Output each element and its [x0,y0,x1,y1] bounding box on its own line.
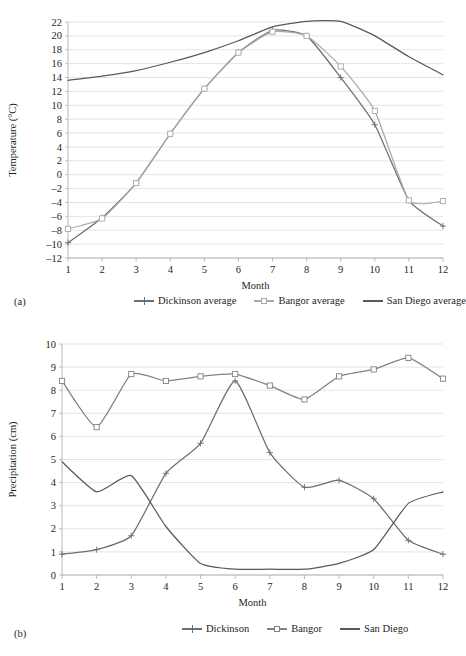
x-axis-tick-label: 3 [134,264,139,275]
marker-square [233,371,238,376]
legend-label: Bangor average [278,296,344,307]
x-axis-tick-label: 6 [233,581,238,592]
x-axis-tick-label: 8 [302,581,307,592]
y-axis-tick-label: –8 [51,225,63,236]
y-axis-tick-label: 14 [52,72,63,83]
legend-swatch-icon [363,296,383,306]
x-axis-title: Month [241,280,270,291]
legend-item-dickinson[interactable]: Dickinson [182,624,249,635]
y-axis-tick-label: 22 [52,17,63,28]
marker-square [440,198,445,203]
y-axis-tick-label: 12 [52,86,63,97]
y-axis-tick-label: 18 [52,44,63,55]
y-axis-title: Temperature (°C) [7,103,19,177]
marker-square [129,371,134,376]
marker-square [134,180,139,185]
y-axis-tick-label: 4 [51,477,57,488]
legend-swatch-icon [182,624,202,634]
chart-a-canvas: 2220181614121086420–2–4–6–8–10–121234567… [0,0,461,292]
y-axis-tick-label: 10 [52,100,63,111]
y-axis-tick-label: –4 [51,197,63,208]
marker-square [406,355,411,360]
x-axis-tick-label: 7 [270,264,275,275]
marker-square [267,383,272,388]
x-axis-title: Month [238,597,267,608]
x-axis-tick-label: 9 [338,264,343,275]
marker-square [94,425,99,430]
y-axis-tick-label: 4 [57,142,63,153]
marker-square [338,64,343,69]
y-axis-tick-label: 0 [51,570,56,581]
precipitation-line-chart: 109876543210123456789101112MonthPrecipit… [0,322,461,622]
marker-square [406,198,411,203]
x-axis-tick-label: 3 [129,581,134,592]
legend-swatch-icon [267,624,287,634]
series-line-bangor-average [68,31,443,229]
legend-label: Dickinson average [158,296,236,307]
y-axis-tick-label: 10 [46,339,57,350]
x-axis-tick-label: 4 [168,264,174,275]
y-axis-tick-label: 1 [51,547,56,558]
y-axis-tick-label: 2 [51,523,56,534]
figure-a-temperature: 2220181614121086420–2–4–6–8–10–121234567… [0,0,461,322]
marker-square [270,29,275,34]
temperature-line-chart: 2220181614121086420–2–4–6–8–10–121234567… [0,0,461,292]
marker-square [371,367,376,372]
legend-swatch-icon [254,296,274,306]
series-line-dickinson [62,381,443,554]
y-axis-tick-label: 0 [57,169,62,180]
figure-b-precipitation: 109876543210123456789101112MonthPrecipit… [0,322,461,656]
x-axis-tick-label: 12 [438,581,449,592]
y-axis-tick-label: 20 [52,30,63,41]
y-axis-tick-label: –6 [51,211,63,222]
marker-plus [301,484,307,490]
x-axis-tick-label: 10 [370,264,381,275]
panel-label-a: (a) [14,296,26,307]
legend-label: Dickinson [206,624,249,635]
y-axis-tick-label: 6 [57,128,62,139]
x-axis-tick-label: 11 [404,264,414,275]
marker-square [372,108,377,113]
legend-item-bangor-average[interactable]: Bangor average [254,296,344,307]
y-axis-tick-label: 7 [51,408,56,419]
x-axis-tick-label: 8 [304,264,309,275]
series-line-bangor [62,358,443,427]
legend-label: San Diego average [387,296,466,307]
y-axis-tick-label: –12 [45,253,62,264]
x-axis-tick-label: 2 [94,581,99,592]
y-axis-tick-label: 2 [57,155,62,166]
legend-item-bangor[interactable]: Bangor [267,624,322,635]
legend-label: Bangor [291,624,322,635]
x-axis-tick-label: 10 [368,581,379,592]
legend-label: San Diego [364,624,408,635]
x-axis-tick-label: 1 [59,581,64,592]
marker-square [99,216,104,221]
marker-square [65,226,70,231]
marker-plus [372,122,378,128]
legend-item-san-diego-average[interactable]: San Diego average [363,296,466,307]
panel-label-b: (b) [14,628,26,639]
y-axis-tick-label: 5 [51,454,56,465]
marker-square [304,33,309,38]
chart-a-legend: Dickinson averageBangor averageSan Diego… [134,296,466,307]
legend-item-dickinson-average[interactable]: Dickinson average [134,296,236,307]
legend-swatch-icon [134,296,154,306]
marker-square [202,86,207,91]
y-axis-tick-label: –2 [51,183,63,194]
marker-square [198,374,203,379]
chart-b-legend: DickinsonBangorSan Diego [182,624,408,635]
y-axis-tick-label: 9 [51,362,56,373]
y-axis-tick-label: 8 [51,385,56,396]
x-axis-tick-label: 6 [236,264,241,275]
series-line-san-diego [62,462,443,570]
marker-square [163,378,168,383]
y-axis-tick-label: 16 [52,58,63,69]
y-axis-tick-label: 8 [57,114,62,125]
marker-square [236,50,241,55]
series-line-dickinson-average [68,30,443,243]
marker-square [440,376,445,381]
x-axis-tick-label: 5 [198,581,203,592]
chart-b-canvas: 109876543210123456789101112MonthPrecipit… [0,322,461,622]
x-axis-tick-label: 1 [65,264,70,275]
legend-item-san-diego[interactable]: San Diego [340,624,408,635]
